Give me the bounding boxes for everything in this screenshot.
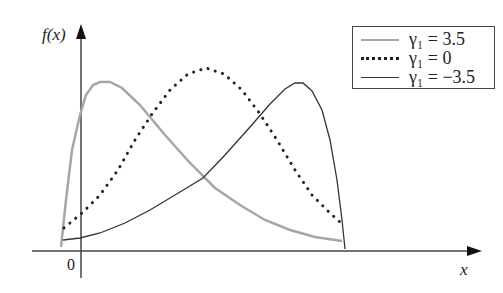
legend-label: γ₁ = −3.5 bbox=[409, 67, 475, 88]
legend-item-gamma-neg-3-5: γ₁ = −3.5 bbox=[361, 68, 494, 87]
series-gamma-neg-3-5 bbox=[63, 83, 345, 249]
legend-swatch-dotted-icon bbox=[361, 57, 399, 60]
legend-label: γ₁ = 0 bbox=[409, 48, 451, 69]
legend-item-gamma-0: γ₁ = 0 bbox=[361, 49, 494, 68]
x-axis-label: x bbox=[460, 260, 468, 280]
y-axis-arrow-icon bbox=[76, 24, 86, 39]
series-gamma-3-5 bbox=[61, 82, 342, 247]
series-gamma-0 bbox=[64, 68, 341, 228]
y-axis-label: f(x) bbox=[42, 25, 66, 45]
legend-swatch-solid-black-icon bbox=[361, 77, 399, 78]
legend-label: γ₁ = 3.5 bbox=[409, 29, 465, 50]
legend-item-gamma-3-5: γ₁ = 3.5 bbox=[361, 30, 494, 49]
legend: γ₁ = 3.5 γ₁ = 0 γ₁ = −3.5 bbox=[352, 26, 495, 89]
origin-label: 0 bbox=[67, 256, 75, 274]
legend-swatch-solid-gray-icon bbox=[361, 39, 399, 41]
x-axis-arrow-icon bbox=[467, 246, 482, 256]
